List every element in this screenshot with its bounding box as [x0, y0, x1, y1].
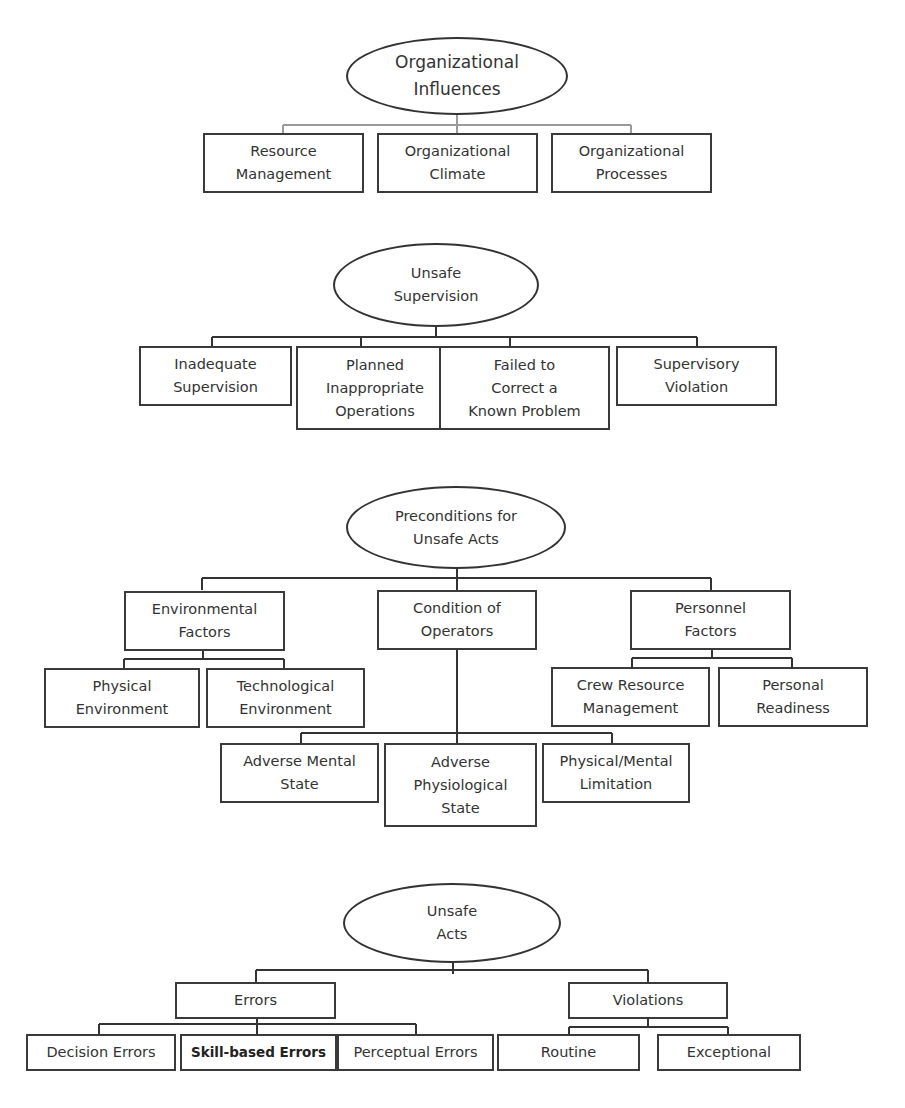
organizational-climate-box: Organizational Climate — [377, 133, 538, 193]
physical-environment-box: Physical Environment — [44, 668, 200, 728]
errors-box: Errors — [175, 982, 336, 1019]
exceptional-box: Exceptional — [657, 1034, 801, 1071]
crew-resource-management-box: Crew Resource Management — [551, 667, 710, 727]
skill-based-errors-box: Skill-based Errors — [180, 1034, 337, 1071]
organizational-influences-node: Organizational Influences — [346, 37, 568, 115]
physical-mental-limitation-box: Physical/Mental Limitation — [542, 743, 690, 803]
resource-management-box: Resource Management — [203, 133, 364, 193]
decision-errors-box: Decision Errors — [26, 1034, 176, 1071]
technological-environment-box: Technological Environment — [206, 668, 365, 728]
personal-readiness-box: Personal Readiness — [718, 667, 868, 727]
condition-of-operators-box: Condition of Operators — [377, 590, 537, 650]
supervisory-violation-box: Supervisory Violation — [616, 346, 777, 406]
environmental-factors-box: Environmental Factors — [124, 591, 285, 651]
perceptual-errors-box: Perceptual Errors — [337, 1034, 494, 1071]
failed-to-correct-box: Failed to Correct a Known Problem — [439, 346, 610, 430]
unsafe-acts-node: Unsafe Acts — [343, 883, 561, 963]
adverse-mental-state-box: Adverse Mental State — [220, 743, 379, 803]
inadequate-supervision-box: Inadequate Supervision — [139, 346, 292, 406]
planned-inappropriate-operations-box: Planned Inappropriate Operations — [296, 346, 454, 430]
organizational-processes-box: Organizational Processes — [551, 133, 712, 193]
adverse-physiological-state-box: Adverse Physiological State — [384, 743, 537, 827]
violations-box: Violations — [568, 982, 728, 1019]
unsafe-supervision-node: Unsafe Supervision — [333, 243, 539, 327]
personnel-factors-box: Personnel Factors — [630, 590, 791, 650]
routine-box: Routine — [497, 1034, 640, 1071]
preconditions-node: Preconditions for Unsafe Acts — [346, 486, 566, 569]
